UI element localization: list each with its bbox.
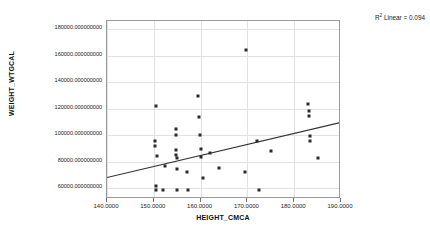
data-point: [307, 103, 310, 106]
data-point: [163, 165, 166, 168]
y-axis-tick-label: 80000.000000000: [58, 158, 102, 164]
x-axis-tick-label: 150.0000: [140, 203, 165, 209]
x-axis-tick-label: 160.0000: [187, 203, 212, 209]
x-axis-tick-label: 140.0000: [93, 203, 118, 209]
data-point: [186, 189, 189, 192]
y-axis-tick-label: 120000.000000000: [55, 105, 102, 111]
y-axis-tick-label: 140000.000000000: [55, 78, 102, 84]
y-axis-tick-label: 100000.000000000: [55, 131, 102, 137]
plot-area: [106, 20, 340, 198]
data-point: [175, 156, 178, 159]
x-axis-tick-label: 170.0000: [234, 203, 259, 209]
data-point: [255, 139, 258, 142]
data-point: [174, 133, 177, 136]
y-axis-title: WEIGHT_WTGCAL: [8, 19, 15, 149]
r-squared-annotation: R2 Linear = 0.094: [375, 14, 425, 21]
y-axis-tick-label: 160000.000000000: [55, 52, 102, 58]
scatter-plot-figure: 60000.00000000080000.000000000100000.000…: [0, 0, 430, 237]
data-point: [269, 149, 272, 152]
data-point: [155, 154, 158, 157]
data-point: [200, 156, 203, 159]
data-point: [197, 95, 200, 98]
data-point: [174, 128, 177, 131]
y-axis-tick-label: 180000.000000000: [55, 25, 102, 31]
data-point: [316, 157, 319, 160]
x-axis-tick-mark: [200, 198, 201, 202]
y-axis-tick-label: 60000.000000000: [58, 185, 102, 191]
data-point: [257, 188, 260, 191]
data-point: [245, 49, 248, 52]
x-axis-tick-label: 180.0000: [281, 203, 306, 209]
data-point: [176, 189, 179, 192]
data-point: [154, 144, 157, 147]
regression-line: [107, 21, 339, 197]
data-point: [218, 166, 221, 169]
x-axis-tick-mark: [340, 198, 341, 202]
data-point: [175, 167, 178, 170]
data-point: [308, 114, 311, 117]
r-squared-superscript: 2: [380, 13, 383, 18]
data-point: [198, 116, 201, 119]
data-point: [244, 170, 247, 173]
data-point: [154, 140, 157, 143]
y-axis-tick-labels: 60000.00000000080000.000000000100000.000…: [0, 20, 102, 198]
data-point: [199, 147, 202, 150]
x-axis-title: HEIGHT_CMCA: [106, 214, 340, 221]
data-point: [162, 188, 165, 191]
data-point: [208, 152, 211, 155]
data-point: [155, 105, 158, 108]
regression-line-segment: [107, 123, 339, 178]
data-point: [154, 184, 157, 187]
data-point: [308, 134, 311, 137]
data-point: [201, 176, 204, 179]
data-point: [198, 134, 201, 137]
x-axis-tick-label: 190.0000: [327, 203, 352, 209]
x-axis-tick-mark: [246, 198, 247, 202]
x-axis-tick-mark: [106, 198, 107, 202]
data-point: [185, 171, 188, 174]
data-point: [307, 109, 310, 112]
data-point: [309, 140, 312, 143]
x-axis-tick-mark: [153, 198, 154, 202]
data-point: [175, 148, 178, 151]
data-point: [154, 189, 157, 192]
x-axis-tick-mark: [293, 198, 294, 202]
